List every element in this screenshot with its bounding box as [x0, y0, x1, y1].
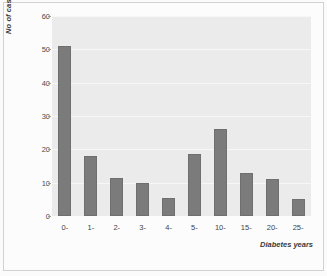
x-tick-label: 1-: [88, 223, 95, 232]
y-tick-label: 50: [4, 45, 50, 54]
y-tick-label: 30: [4, 112, 50, 121]
x-tick-label: 3-: [139, 223, 146, 232]
y-tick-mark: [48, 116, 51, 117]
y-tick-label: 40: [4, 78, 50, 87]
x-tick-label: 15-: [241, 223, 252, 232]
x-axis-ticks: 0-1-2-3-4-5-10-15-20-25-: [52, 218, 311, 232]
x-tick-label: 0-: [62, 223, 69, 232]
x-tick-label: 5-: [191, 223, 198, 232]
y-tick-mark: [48, 149, 51, 150]
bar: [110, 178, 123, 216]
y-tick-label: 10: [4, 178, 50, 187]
bar: [240, 173, 253, 216]
gridline: [52, 149, 311, 150]
bar: [214, 129, 227, 216]
y-tick-mark: [48, 49, 51, 50]
bar: [136, 183, 149, 216]
x-tick-label: 25-: [293, 223, 304, 232]
x-tick-label: 2-: [113, 223, 120, 232]
y-tick-mark: [48, 16, 51, 17]
gridline: [52, 16, 311, 17]
x-tick-label: 10-: [215, 223, 226, 232]
bar: [162, 198, 175, 216]
y-tick-mark: [48, 216, 51, 217]
y-tick-label: 0: [4, 212, 50, 221]
y-tick-mark: [48, 83, 51, 84]
x-axis-title: Diabetes years: [260, 240, 313, 249]
x-tick-label: 4-: [165, 223, 172, 232]
gridline: [52, 116, 311, 117]
bar: [292, 199, 305, 216]
bar: [84, 156, 97, 216]
x-tick-label: 20-: [267, 223, 278, 232]
y-tick-mark: [48, 183, 51, 184]
y-tick-label: 60: [4, 12, 50, 21]
y-tick-label: 20: [4, 145, 50, 154]
gridline: [52, 83, 311, 84]
gridline: [52, 49, 311, 50]
bar: [58, 46, 71, 216]
bar: [266, 179, 279, 216]
y-axis-ticks: 0102030405060: [0, 16, 50, 216]
figure-container: No of cases 0102030405060 0-1-2-3-4-5-10…: [0, 0, 327, 276]
plot-area: [52, 16, 311, 216]
bar: [188, 154, 201, 216]
